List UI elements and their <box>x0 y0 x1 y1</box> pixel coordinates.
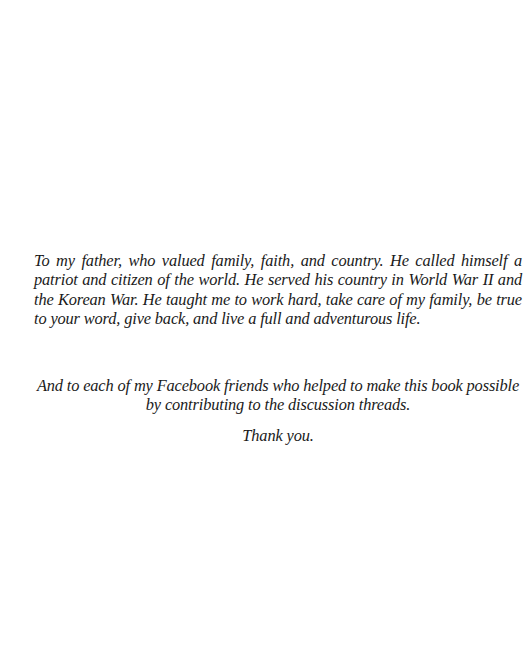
thank-you-line: Thank you. <box>34 426 522 445</box>
dedication-page: To my father, who valued family, faith, … <box>0 0 528 658</box>
dedication-to-father: To my father, who valued family, faith, … <box>34 251 522 329</box>
dedication-to-facebook-friends: And to each of my Facebook friends who h… <box>34 376 522 415</box>
